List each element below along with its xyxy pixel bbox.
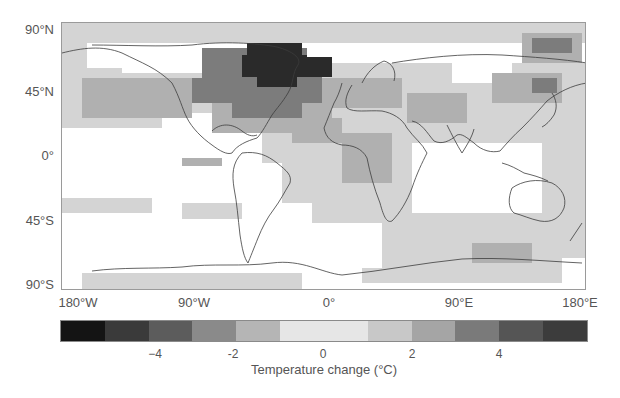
y-label-90n: 90°N [0, 22, 54, 37]
colorbar-segment [236, 321, 280, 341]
colorbar-segment [280, 321, 368, 341]
colorbar-segment [192, 321, 236, 341]
colorbar-segment [105, 321, 149, 341]
colorbar-title: Temperature change (°C) [251, 362, 397, 377]
world-map [61, 22, 586, 290]
colorbar-segment [499, 321, 543, 341]
y-label-45n: 45°N [0, 84, 54, 99]
x-label-90e: 90°E [445, 295, 473, 310]
x-label-180e: 180°E [562, 295, 598, 310]
colorbar [60, 320, 588, 342]
colorbar-segment [149, 321, 193, 341]
colorbar-tick-2: 2 [409, 347, 416, 361]
colorbar-tick-minus2: -2 [228, 347, 239, 361]
colorbar-segment [368, 321, 412, 341]
y-label-0: 0° [0, 148, 54, 163]
y-label-45s: 45°S [0, 213, 54, 228]
x-label-180w: 180°W [58, 295, 97, 310]
colorbar-tick-0: 0 [320, 347, 327, 361]
anomaly-white-greenland [307, 43, 347, 57]
y-label-90s: 90°S [0, 277, 54, 292]
colorbar-tick-minus4: −4 [148, 347, 162, 361]
x-label-90w: 90°W [178, 295, 210, 310]
colorbar-segment [543, 321, 587, 341]
colorbar-tick-4: 4 [496, 347, 503, 361]
x-label-0: 0° [323, 295, 335, 310]
colorbar-segment [455, 321, 499, 341]
colorbar-segment [412, 321, 456, 341]
colorbar-segment [61, 321, 105, 341]
temperature-field [62, 23, 586, 290]
